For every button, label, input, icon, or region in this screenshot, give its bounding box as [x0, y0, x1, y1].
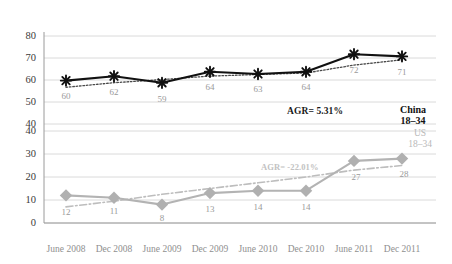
china-ytick-60: 60 [14, 75, 36, 86]
us-plot-area [0, 126, 452, 238]
china-data-label-5: 64 [302, 83, 311, 92]
china-gridlines [44, 36, 436, 124]
china-data-label-1: 62 [110, 88, 119, 97]
us-agr-annotation: AGR= -22.01% [261, 162, 319, 172]
china-legend-line-1: China [382, 104, 444, 115]
us-legend-line-2: 18–34 [392, 139, 448, 150]
us-data-label-2: 8 [160, 214, 165, 223]
china-legend: China 18–34 [382, 104, 444, 126]
china-agr-annotation: AGR= 5.31% [287, 106, 343, 116]
chart-canvas: 80 70 60 50 40 60 62 59 64 63 64 72 71 A… [0, 0, 452, 264]
us-data-label-6: 27 [352, 173, 361, 182]
china-chart-panel: 80 70 60 50 40 60 62 59 64 63 64 72 71 A… [0, 18, 452, 128]
us-data-label-1: 11 [110, 207, 119, 216]
us-chart-panel: 40 30 20 10 0 12 11 8 13 14 14 27 28 AGR… [0, 126, 452, 238]
china-ytick-50: 50 [14, 97, 36, 108]
us-ytick-10: 10 [14, 195, 36, 206]
us-data-label-5: 14 [302, 203, 311, 212]
china-ytick-80: 80 [14, 31, 36, 42]
china-data-label-3: 64 [206, 83, 215, 92]
china-data-label-6: 72 [350, 66, 359, 75]
us-gridlines [44, 131, 436, 223]
us-legend: US 18–34 [392, 128, 448, 149]
us-ytick-0: 0 [14, 218, 36, 229]
us-ytick-40: 40 [14, 126, 36, 137]
us-data-label-7: 28 [400, 170, 409, 179]
china-data-label-4: 63 [254, 85, 263, 94]
us-data-label-4: 14 [254, 203, 263, 212]
china-data-label-0: 60 [62, 92, 71, 101]
x-tick-dec-2011: Dec 2011 [366, 245, 438, 255]
us-data-label-3: 13 [206, 205, 215, 214]
us-data-label-0: 12 [62, 208, 71, 217]
us-ytick-30: 30 [14, 149, 36, 160]
china-data-label-2: 59 [158, 95, 167, 104]
us-ytick-20: 20 [14, 172, 36, 183]
china-ytick-70: 70 [14, 53, 36, 64]
china-data-label-7: 71 [398, 68, 407, 77]
us-legend-line-1: US [392, 128, 448, 139]
china-legend-line-2: 18–34 [382, 115, 444, 126]
